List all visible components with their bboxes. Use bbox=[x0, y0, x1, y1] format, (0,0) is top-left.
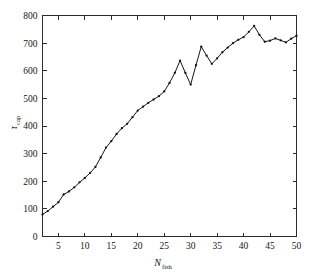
data-point bbox=[274, 37, 276, 39]
x-tick-label: 15 bbox=[107, 241, 117, 251]
data-point bbox=[115, 133, 117, 135]
x-tick-label: 5 bbox=[56, 241, 61, 251]
data-point bbox=[242, 36, 244, 38]
data-point bbox=[258, 34, 260, 36]
y-tick-label: 400 bbox=[23, 121, 38, 131]
y-tick-label: 800 bbox=[23, 11, 38, 21]
data-point bbox=[41, 213, 43, 215]
data-point bbox=[142, 106, 144, 108]
data-point bbox=[295, 35, 297, 37]
data-point bbox=[163, 90, 165, 92]
data-point bbox=[248, 31, 250, 33]
data-point bbox=[184, 72, 186, 74]
data-point bbox=[237, 39, 239, 41]
x-axis-title-main: N bbox=[153, 257, 162, 268]
data-point bbox=[131, 116, 133, 118]
data-point bbox=[121, 127, 123, 129]
x-tick-label: 50 bbox=[292, 241, 302, 251]
data-point bbox=[52, 206, 54, 208]
data-point bbox=[78, 181, 80, 183]
y-axis-title: τ cap bbox=[8, 116, 21, 130]
y-tick-label: 0 bbox=[33, 232, 38, 242]
x-tick-label: 45 bbox=[265, 241, 275, 251]
y-tick-label: 600 bbox=[23, 66, 38, 76]
y-tick-marks bbox=[43, 16, 297, 237]
x-axis-title: N fish bbox=[153, 257, 172, 270]
plot-frame bbox=[43, 16, 297, 237]
data-point bbox=[221, 51, 223, 53]
data-point bbox=[94, 166, 96, 168]
data-point bbox=[216, 57, 218, 59]
x-tick-marks bbox=[58, 16, 296, 237]
data-point bbox=[168, 82, 170, 84]
data-point bbox=[285, 41, 287, 43]
data-point bbox=[269, 39, 271, 41]
y-tick-label: 300 bbox=[23, 149, 38, 159]
data-point bbox=[47, 210, 49, 212]
y-tick-labels: 0100200300400500600700800 bbox=[23, 11, 38, 242]
data-point bbox=[205, 54, 207, 56]
data-point bbox=[232, 42, 234, 44]
y-axis-title-sub: cap bbox=[14, 116, 21, 125]
data-point bbox=[84, 177, 86, 179]
x-tick-label: 30 bbox=[186, 241, 196, 251]
data-point bbox=[279, 39, 281, 41]
y-tick-label: 700 bbox=[23, 39, 38, 49]
x-tick-label: 40 bbox=[239, 241, 249, 251]
data-point bbox=[147, 102, 149, 104]
x-tick-label: 10 bbox=[80, 241, 90, 251]
x-tick-labels: 5101520253035404550 bbox=[56, 241, 302, 251]
data-point bbox=[137, 109, 139, 111]
data-point bbox=[195, 64, 197, 66]
x-tick-label: 35 bbox=[212, 241, 222, 251]
data-point bbox=[100, 156, 102, 158]
data-point bbox=[152, 98, 154, 100]
data-point bbox=[190, 83, 192, 85]
x-axis-title-sub: fish bbox=[162, 263, 173, 270]
data-line-tau-cap bbox=[43, 26, 297, 214]
data-point bbox=[174, 72, 176, 74]
line-chart: 5101520253035404550 01002003004005006007… bbox=[0, 0, 313, 275]
y-tick-label: 500 bbox=[23, 94, 38, 104]
data-point bbox=[89, 172, 91, 174]
y-tick-label: 200 bbox=[23, 177, 38, 187]
y-tick-label: 100 bbox=[23, 204, 38, 214]
data-point bbox=[63, 193, 65, 195]
data-point bbox=[73, 186, 75, 188]
data-point bbox=[68, 190, 70, 192]
y-axis-title-main: τ bbox=[8, 126, 19, 130]
data-point bbox=[290, 38, 292, 40]
x-tick-label: 20 bbox=[133, 241, 143, 251]
x-tick-label: 25 bbox=[159, 241, 169, 251]
data-point bbox=[110, 140, 112, 142]
data-point bbox=[211, 63, 213, 65]
data-point bbox=[253, 25, 255, 27]
data-point bbox=[57, 201, 59, 203]
data-markers bbox=[41, 25, 297, 216]
data-point bbox=[227, 46, 229, 48]
data-point bbox=[105, 146, 107, 148]
data-point bbox=[158, 95, 160, 97]
data-point bbox=[264, 41, 266, 43]
data-point bbox=[200, 46, 202, 48]
data-point bbox=[126, 123, 128, 125]
figure-container: 5101520253035404550 01002003004005006007… bbox=[0, 0, 313, 275]
data-point bbox=[179, 59, 181, 61]
